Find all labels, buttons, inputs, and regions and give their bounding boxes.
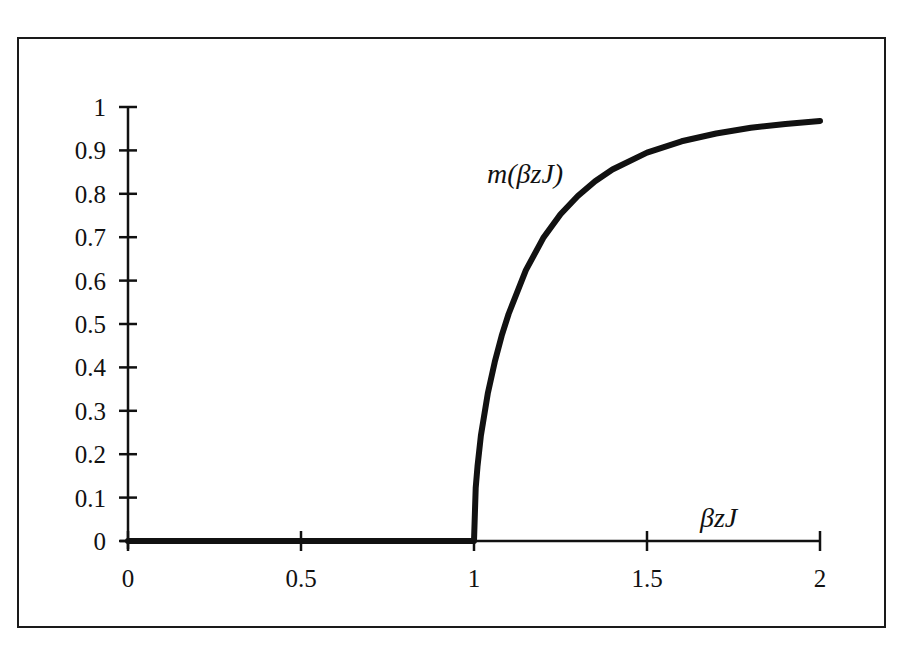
y-tick-label: 0.6 bbox=[75, 268, 106, 295]
y-tick-label: 0.3 bbox=[75, 398, 106, 425]
x-tick-label: 0.5 bbox=[285, 565, 316, 592]
chart-svg: 00.10.20.30.40.50.60.70.80.91 00.511.52 … bbox=[0, 0, 915, 658]
y-tick-label: 1 bbox=[94, 94, 107, 121]
curve-label: m(βzJ) bbox=[487, 158, 563, 189]
x-axis-label: βzJ bbox=[699, 502, 739, 533]
x-tick-label: 2 bbox=[814, 565, 827, 592]
magnetization-curve bbox=[128, 121, 820, 541]
x-tick-label: 0 bbox=[122, 565, 135, 592]
y-tick-label: 0.1 bbox=[75, 485, 106, 512]
x-tick-label: 1.5 bbox=[631, 565, 662, 592]
axes bbox=[120, 107, 820, 549]
y-tick-label: 0 bbox=[94, 528, 107, 555]
y-tick-label: 0.8 bbox=[75, 181, 106, 208]
y-tick-label: 0.4 bbox=[75, 354, 107, 381]
x-tick-label: 1 bbox=[468, 565, 481, 592]
y-tick-label: 0.9 bbox=[75, 137, 106, 164]
y-tick-label: 0.7 bbox=[75, 224, 106, 251]
y-tick-label: 0.2 bbox=[75, 441, 106, 468]
y-tick-label: 0.5 bbox=[75, 311, 106, 338]
